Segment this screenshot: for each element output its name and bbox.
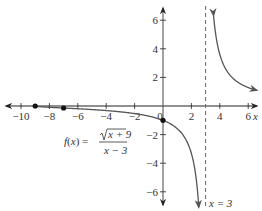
curve-right-branch [214, 16, 257, 91]
asymptote-label: x = 3 [208, 197, 233, 209]
function-lhs: f(x) = [64, 135, 88, 148]
data-point [61, 105, 66, 110]
x-axis-label: x [252, 110, 258, 122]
x-tick-label: −6 [72, 110, 84, 122]
function-denominator: x − 3 [103, 144, 128, 156]
x-tick-label: 4 [217, 110, 223, 122]
data-point [33, 103, 38, 108]
y-tick-label: 2 [153, 71, 159, 83]
x-tick-label: 2 [189, 110, 195, 122]
curve-left-branch [35, 106, 199, 207]
function-numerator: x + 9 [107, 128, 132, 140]
y-tick-label: 4 [153, 43, 159, 55]
y-tick-label: 6 [153, 14, 159, 26]
x-tick-label: −4 [100, 110, 112, 122]
y-tick-label: −4 [146, 157, 158, 169]
y-tick-label: −2 [146, 129, 158, 141]
x-tick-label: −2 [129, 110, 141, 122]
function-graph: −10−8−6−4−20246 −6−4−2246 x f(x) = x + 9… [0, 0, 262, 211]
y-tick-label: −6 [146, 186, 158, 198]
x-tick-label: 6 [245, 110, 251, 122]
x-tick-label: −10 [12, 110, 30, 122]
data-point [160, 118, 165, 123]
x-tick-label: −8 [44, 110, 56, 122]
function-label: f(x) = x + 9 x − 3 [64, 128, 132, 156]
